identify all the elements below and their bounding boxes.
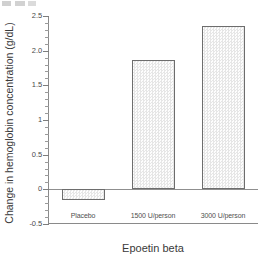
y-tick-minor: [45, 78, 49, 79]
y-tick-major: [43, 189, 49, 190]
y-tick-minor: [45, 30, 49, 31]
y-tick-minor: [45, 148, 49, 149]
y-tick-minor: [45, 92, 49, 93]
y-tick-minor: [45, 162, 49, 163]
y-tick-label: 1: [38, 116, 42, 124]
y-tick-major: [43, 120, 49, 121]
y-tick-minor: [45, 169, 49, 170]
bar: [202, 26, 245, 189]
y-tick-minor: [45, 58, 49, 59]
y-tick-label: 0: [38, 186, 42, 194]
y-tick-minor: [45, 141, 49, 142]
y-tick-minor: [45, 175, 49, 176]
x-tick-label: 3000 U/person: [201, 212, 246, 219]
y-tick-minor: [45, 134, 49, 135]
y-tick-minor: [45, 182, 49, 183]
y-tick-major: [43, 155, 49, 156]
y-tick-major: [43, 16, 49, 17]
plot-area: 2.52.01.510.50-0.5: [48, 16, 258, 224]
y-tick-minor: [45, 37, 49, 38]
y-tick-label: -0.5: [29, 220, 42, 228]
x-tick-label: Placebo: [71, 212, 96, 219]
y-tick-minor: [45, 113, 49, 114]
y-tick-major: [43, 224, 49, 225]
y-tick-minor: [45, 65, 49, 66]
y-tick-label: 2.5: [32, 12, 42, 20]
y-tick-major: [43, 51, 49, 52]
y-tick-minor: [45, 23, 49, 24]
bar-chart-figure: 2.52.01.510.50-0.5 Placebo1500 U/person3…: [0, 0, 267, 266]
x-axis-line: [48, 223, 258, 224]
y-axis-title: Change in hemoglobin concentration (g/dL…: [2, 8, 16, 238]
y-tick-minor: [45, 217, 49, 218]
x-tick-label: 1500 U/person: [131, 212, 176, 219]
y-tick-label: 1.5: [32, 82, 42, 90]
y-tick-major: [43, 85, 49, 86]
y-tick-minor: [45, 106, 49, 107]
bar: [62, 189, 105, 199]
y-tick-minor: [45, 71, 49, 72]
y-tick-minor: [45, 203, 49, 204]
y-tick-label: 0.5: [32, 151, 42, 159]
y-tick-label: 2.0: [32, 47, 42, 55]
y-tick-minor: [45, 127, 49, 128]
scan-artifact: [2, 1, 36, 6]
y-tick-minor: [45, 196, 49, 197]
y-tick-minor: [45, 99, 49, 100]
x-axis-title: Epoetin beta: [48, 243, 258, 254]
y-tick-minor: [45, 210, 49, 211]
y-tick-minor: [45, 44, 49, 45]
bar: [132, 60, 175, 190]
